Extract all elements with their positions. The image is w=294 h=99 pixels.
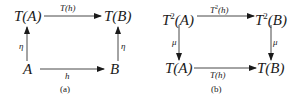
node-TB: T(B) [104,9,132,24]
label-eta-left: η [19,42,23,51]
node-T2A: T2(A) [162,9,194,28]
node-A: A [23,62,32,77]
node-B: B [110,62,119,77]
node-TA-b: T(A) [165,61,193,76]
caption-a: (a) [60,85,70,94]
diagram-b: T2(A) T2(B) T(A) T(B) T2(h) μ μ T(h) (b) [147,0,294,99]
label-T2h: T2(h) [210,3,229,15]
node-TB-b: T(B) [257,61,285,76]
label-mu-right: μ [273,38,278,47]
label-Th-a: T(h) [60,4,76,13]
caption-b: (b) [211,85,222,94]
label-eta-right: η [121,42,125,51]
node-TA: T(A) [14,9,42,24]
node-T2B: T2(B) [255,9,287,28]
label-h: h [65,72,70,81]
label-mu-left: μ [172,38,177,47]
diagram-a: T(A) T(B) A B T(h) η η h (a) [0,0,147,99]
label-Th-b: T(h) [210,71,226,80]
